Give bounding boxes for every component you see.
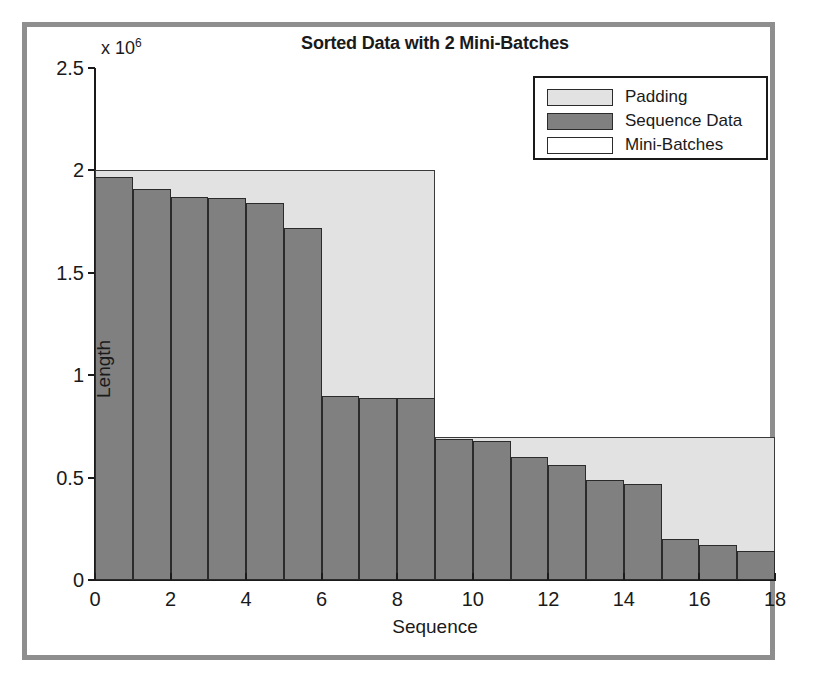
bar [473, 441, 511, 580]
y-axis-exponent-label: x 106 [101, 36, 142, 59]
x-tick-mark [623, 573, 625, 580]
bar [171, 197, 209, 580]
x-tick-label: 0 [89, 588, 100, 611]
x-tick-label: 6 [316, 588, 327, 611]
bar [435, 439, 473, 580]
x-tick-label: 14 [613, 588, 635, 611]
legend-swatch [547, 113, 613, 130]
bar [586, 480, 624, 580]
y-tick-label: 0.5 [56, 466, 84, 489]
legend-label: Sequence Data [625, 111, 742, 131]
y-tick-label: 0 [73, 569, 84, 592]
y-axis-exponent-power: 6 [135, 36, 142, 50]
y-tick-mark [88, 67, 95, 69]
y-tick-label: 1.5 [56, 261, 84, 284]
y-axis-exponent-base: x 10 [101, 38, 135, 58]
y-tick-mark [88, 169, 95, 171]
x-tick-label: 2 [165, 588, 176, 611]
x-tick-mark [774, 573, 776, 580]
x-tick-mark [547, 573, 549, 580]
chart-legend: PaddingSequence DataMini-Batches [533, 76, 768, 160]
legend-item: Sequence Data [535, 109, 766, 133]
bar [548, 465, 586, 580]
legend-item: Mini-Batches [535, 133, 766, 157]
bar [511, 457, 549, 580]
bar [397, 398, 435, 580]
y-tick-label: 1 [73, 364, 84, 387]
x-tick-mark [94, 573, 96, 580]
x-tick-mark [396, 573, 398, 580]
y-axis-title: Length [93, 340, 115, 398]
bar [737, 551, 775, 580]
x-tick-mark [472, 573, 474, 580]
chart-title: Sorted Data with 2 Mini-Batches [95, 33, 775, 54]
bar [284, 228, 322, 580]
legend-label: Padding [625, 87, 687, 107]
y-tick-mark [88, 272, 95, 274]
bar [662, 539, 700, 580]
chart-figure: Sorted Data with 2 Mini-Batches x 106 00… [0, 0, 815, 685]
x-tick-mark [245, 573, 247, 580]
y-tick-label: 2.5 [56, 57, 84, 80]
legend-label: Mini-Batches [625, 135, 723, 155]
bar [359, 398, 397, 580]
x-tick-label: 12 [537, 588, 559, 611]
x-tick-mark [321, 573, 323, 580]
bar [699, 545, 737, 580]
bar [322, 396, 360, 580]
x-tick-label: 18 [764, 588, 786, 611]
y-tick-mark [88, 477, 95, 479]
x-tick-label: 16 [688, 588, 710, 611]
x-tick-label: 4 [241, 588, 252, 611]
legend-item: Padding [535, 85, 766, 109]
x-axis-title: Sequence [95, 616, 775, 638]
bar [246, 203, 284, 580]
bar [133, 189, 171, 580]
legend-swatch [547, 89, 613, 106]
legend-swatch [547, 137, 613, 154]
x-tick-label: 8 [392, 588, 403, 611]
x-tick-mark [170, 573, 172, 580]
bar [624, 484, 662, 580]
bar [208, 198, 246, 580]
y-tick-label: 2 [73, 159, 84, 182]
x-tick-label: 10 [462, 588, 484, 611]
x-tick-mark [698, 573, 700, 580]
